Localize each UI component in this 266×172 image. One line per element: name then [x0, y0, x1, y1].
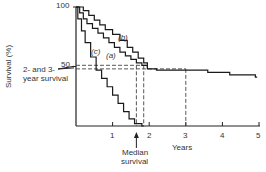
annotation-2-3-year-line2: year survival: [23, 74, 68, 83]
y-tick-100: 100: [56, 1, 69, 10]
x-tick-1: 1: [110, 131, 114, 140]
y-axis-label: Survival (%): [4, 45, 13, 88]
chart-canvas: [0, 0, 266, 172]
x-tick-2: 2: [147, 131, 151, 140]
series-label-a: (a): [106, 51, 116, 60]
y-tick-50: 50: [61, 60, 70, 69]
annotation-2-3-year-line1: 2- and 3-: [23, 65, 55, 74]
x-tick-3: 3: [183, 131, 187, 140]
annotation-median-line2: survival: [121, 157, 148, 166]
plot-area: [58, 7, 260, 148]
x-axis-label: Years: [172, 143, 192, 152]
annotation-median-line1: Median: [122, 148, 148, 157]
series-label-b: (b): [118, 33, 128, 42]
survival-curve-c: [76, 7, 144, 126]
x-tick-5: 5: [256, 131, 260, 140]
series-label-c: (c): [91, 47, 100, 56]
survival-curve-a: [76, 7, 257, 77]
x-tick-4: 4: [220, 131, 224, 140]
median-arrowhead: [134, 132, 139, 138]
